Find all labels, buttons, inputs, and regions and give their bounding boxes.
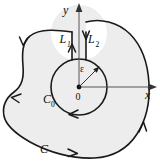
- x-axis-label: x: [144, 88, 151, 102]
- contour-integral-figure: y x 0 ε L 1 L 2 C 0 C: [0, 0, 160, 164]
- cut-line-2-label-letter: L: [87, 32, 95, 46]
- region-fill: [3, 5, 149, 158]
- inner-contour-label-sub: 0: [51, 100, 55, 109]
- outer-contour-label: C: [40, 142, 49, 156]
- y-axis-label: y: [62, 3, 69, 17]
- shaded-region: [3, 5, 149, 158]
- cut-line-1-label-sub: 1: [67, 40, 71, 49]
- figure-canvas: y x 0 ε L 1 L 2 C 0 C: [0, 0, 160, 164]
- cut-line-2-label: L 2: [87, 32, 100, 49]
- origin-label: 0: [76, 91, 81, 102]
- cut-line-1-label: L 1: [59, 32, 71, 49]
- cut-line-1-label-letter: L: [59, 32, 67, 46]
- epsilon-label: ε: [80, 64, 84, 74]
- cut-line-2-label-sub: 2: [96, 40, 100, 49]
